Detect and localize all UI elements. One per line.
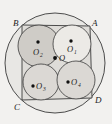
label-o4-subscript: 4 [78,82,81,88]
geometry-diagram: O 1 O 2 O 3 O 4 O A B C D [0,0,112,124]
geometry-figure: O 1 O 2 O 3 O 4 O A B C D [0,0,112,124]
label-o-center: O [59,53,65,63]
label-vertex-a: A [91,18,98,28]
label-o2-subscript: 2 [40,52,43,58]
center-dot-o1 [69,39,72,42]
label-o3-subscript: 3 [42,86,46,92]
label-o4: O [71,77,77,87]
center-dot-o3 [31,84,34,87]
label-vertex-c: C [14,102,21,112]
label-o1-subscript: 1 [74,49,77,55]
label-o1: O [67,44,73,54]
label-o2: O [33,47,39,57]
label-vertex-d: D [94,95,102,105]
label-vertex-b: B [13,18,19,28]
center-dot-o2 [36,40,39,43]
center-dot-o4 [66,80,69,83]
label-o3: O [36,81,42,91]
center-dot-o [53,56,57,60]
